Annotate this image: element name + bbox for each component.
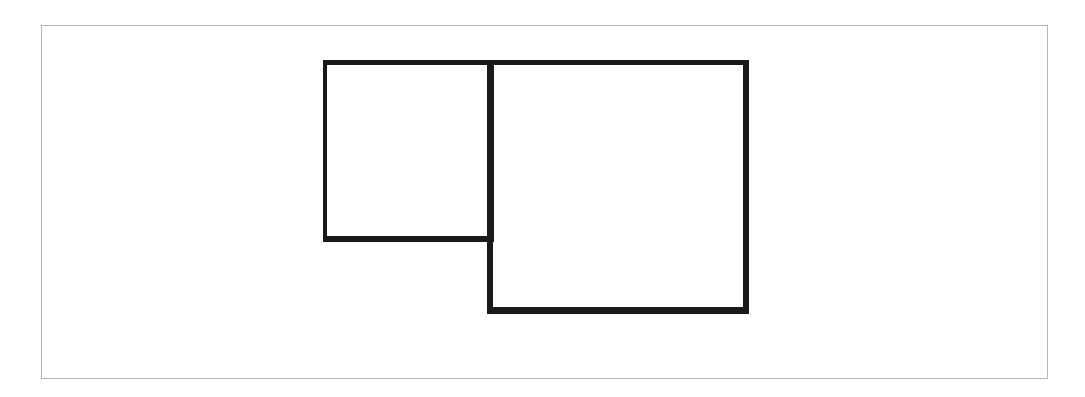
- small-square: [323, 60, 494, 242]
- large-square: [487, 60, 749, 314]
